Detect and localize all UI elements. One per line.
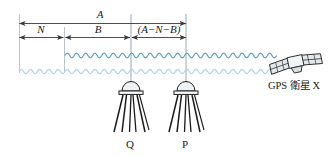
diagram-canvas: A N B (A−N−B) xyxy=(0,0,333,157)
wave-lower xyxy=(19,69,277,73)
dimension-label-a: A xyxy=(96,8,104,20)
wave-upper xyxy=(65,53,277,58)
wave-upper-group xyxy=(65,53,277,58)
receiver-q-icon xyxy=(114,82,149,133)
receiver-q-label: Q xyxy=(126,138,134,150)
antenna-plate-q xyxy=(119,91,143,94)
gps-baseline-diagram: A N B (A−N−B) xyxy=(0,0,333,157)
gps-satellite-label: GPS 衛星 X xyxy=(268,79,321,91)
tripod-q xyxy=(114,95,149,132)
dimension-label-b: B xyxy=(95,23,102,35)
satellite-body xyxy=(287,55,305,74)
dimension-label-n: N xyxy=(36,23,45,35)
wave-lower-group xyxy=(19,69,277,73)
antenna-plate-p xyxy=(174,91,198,94)
receiver-p-icon xyxy=(169,82,204,133)
dimension-row-total: A xyxy=(20,8,187,24)
receiver-p-label: P xyxy=(182,138,188,150)
dimension-row-segments: N B (A−N−B) xyxy=(20,23,187,38)
gps-satellite-icon xyxy=(269,51,323,78)
antenna-dome-q xyxy=(122,82,140,92)
tripod-p xyxy=(169,95,204,132)
satellite-panel-right xyxy=(301,51,322,67)
satellite-panel-left xyxy=(269,58,290,74)
dimension-label-a-minus-n-minus-b: (A−N−B) xyxy=(138,23,181,36)
antenna-dome-p xyxy=(177,82,195,92)
